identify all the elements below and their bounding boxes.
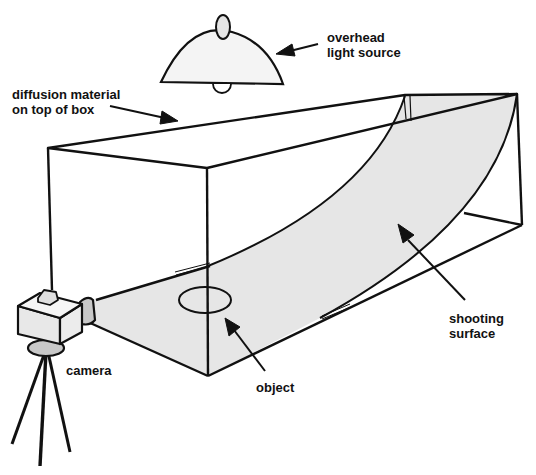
lightbox-diagram: overhead light source diffusion material… [0,0,536,475]
overhead-light-label: overhead light source [327,30,401,60]
object-label: object [256,380,294,395]
camera-icon [12,290,95,466]
diagram-canvas [0,0,536,475]
diffusion-label: diffusion material on top of box [12,87,120,117]
camera-label: camera [66,363,112,378]
shooting-surface-label: shooting surface [449,311,504,341]
arrow-light-icon [276,44,295,56]
arrow-diffusion-icon [160,111,178,124]
overhead-light-icon [161,15,283,93]
